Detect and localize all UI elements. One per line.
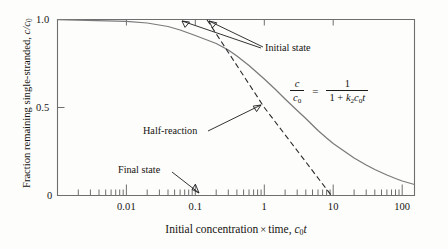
half-reaction-arrow xyxy=(208,105,261,131)
equation-annotation: c c0 = 1 1 + k2c0t xyxy=(290,78,368,105)
x-tick-label-100: 100 xyxy=(394,202,410,213)
equation-rhs-numerator: 1 xyxy=(342,78,353,90)
annotation-final-state: Final state xyxy=(118,165,160,175)
equation-lhs-denominator: c0 xyxy=(290,90,304,105)
y-axis-title: Fraction remaining single-stranded, c/c0 xyxy=(22,18,34,188)
equation-equals-sign: = xyxy=(311,86,319,97)
y-axis-symbol: c/c0 xyxy=(21,18,32,34)
multiplication-icon: × xyxy=(258,224,268,235)
x-axis-title-trail: time, xyxy=(268,223,291,235)
annotation-arrows xyxy=(172,21,263,193)
x-tick-label-10: 10 xyxy=(328,202,339,213)
x-axis-title: Initial concentration×time, c0t xyxy=(165,224,306,237)
figure-container: 1.0 0.5 0 0.01 0.1 1 10 100 Initial conc… xyxy=(0,0,448,249)
equation-lhs: c c0 xyxy=(290,78,304,105)
equation-rhs-denominator: 1 + k2c0t xyxy=(326,90,368,105)
initial-state-arrow-2 xyxy=(209,21,263,47)
y-tick-label-0: 0 xyxy=(47,191,52,202)
final-state-arrow xyxy=(172,172,199,193)
x-tick-label-0_01: 0.01 xyxy=(117,202,136,213)
x-tick-label-0_1: 0.1 xyxy=(189,202,202,213)
y-tick-label-1: 1.0 xyxy=(36,15,49,26)
x-axis-symbol: c0t xyxy=(294,223,306,235)
y-tick-label-0_5: 0.5 xyxy=(36,103,49,114)
x-axis-title-lead: Initial concentration xyxy=(165,223,258,235)
annotation-half-reaction: Half-reaction xyxy=(143,126,197,136)
y-axis-title-lead: Fraction remaining single-stranded, xyxy=(21,37,32,188)
equation-rhs: 1 1 + k2c0t xyxy=(326,78,368,105)
plot-svg xyxy=(0,0,448,249)
plot-frame xyxy=(58,20,415,196)
x-tick-label-1: 1 xyxy=(262,202,267,213)
y-axis-ticks xyxy=(58,20,65,196)
equation-lhs-numerator: c xyxy=(292,78,303,90)
annotation-initial-state: Initial state xyxy=(265,43,311,53)
